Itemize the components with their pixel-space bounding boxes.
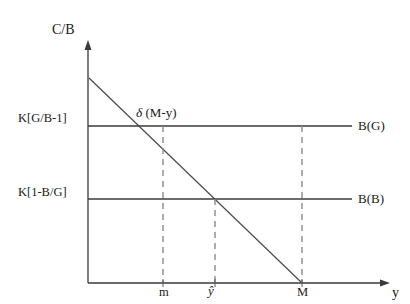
x-tick-label-m: m — [159, 286, 169, 299]
line-label-bb: B(B) — [358, 192, 384, 205]
diagonal-line-annotation: δ (M-y) — [136, 106, 177, 120]
x-axis-title: y — [392, 286, 399, 300]
chart-figure: C/B y K[G/B-1] K[1-B/G] B(G) B(B) δ (M-y… — [0, 0, 410, 304]
y-tick-label-lower: K[1-B/G] — [18, 186, 67, 199]
diagonal-annotation-expression: (M-y) — [146, 105, 177, 120]
x-tick-label-yhat: ŷ — [208, 284, 214, 297]
x-tick-label-M: M — [297, 286, 308, 299]
line-label-bg: B(G) — [358, 119, 385, 132]
chart-canvas — [0, 0, 410, 304]
y-tick-label-upper: K[G/B-1] — [18, 112, 67, 125]
y-axis-title: C/B — [52, 23, 75, 37]
delta-symbol: δ — [136, 105, 142, 120]
line-delta-m-minus-y — [89, 78, 302, 283]
x-axis-arrowhead — [380, 280, 390, 287]
y-axis-arrowhead — [85, 40, 92, 50]
